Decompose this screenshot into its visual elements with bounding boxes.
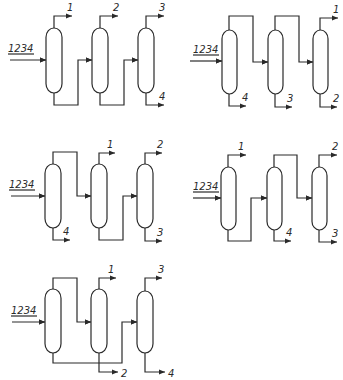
product-label-1: 1 [67,2,73,13]
diagram-sequence-d: 12431234 [193,141,338,245]
product-label-4: 4 [242,92,248,103]
product-label-3: 3 [332,228,338,239]
product-2-line [319,155,337,167]
flow-arrow-icon [307,60,313,65]
product-arrow-icon [240,104,246,109]
product-arrow-icon [285,239,291,244]
product-label-4: 4 [168,368,174,379]
product-arrow-icon [110,276,116,281]
product-label-3: 3 [158,264,164,275]
product-arrow-icon [156,276,162,281]
product-2-line [145,153,162,164]
distillation-sequences-figure: 1234123414321234124312341243123412341234 [0,0,343,380]
feed-arrow-icon [216,59,222,64]
flow-arrow-icon [261,196,267,201]
product-arrow-icon [286,105,292,110]
distillation-column-3 [137,164,153,228]
product-label-2: 2 [333,93,339,104]
product-arrow-icon [159,370,165,375]
product-arrow-icon [66,14,72,19]
distillation-column-3 [137,291,153,353]
product-arrow-icon [112,14,118,19]
product-1-line [228,155,246,167]
product-arrow-icon [331,153,337,158]
product-3-line [145,278,162,291]
product-label-2: 2 [113,2,119,13]
flow-arrow-icon [85,194,91,199]
flow-arrow-icon [86,58,92,63]
flow-arrow-icon [85,320,91,325]
distillation-column-3 [313,30,328,94]
distillation-column-1 [46,28,62,93]
flow-arrow-icon [131,320,137,325]
feed-label: 1234 [11,305,36,316]
product-label-3: 3 [287,93,293,104]
feed-arrow-icon [215,196,221,201]
product-label-4: 4 [63,226,69,237]
distillation-column-3 [312,167,327,230]
distillation-column-1 [221,167,236,230]
product-2-line [100,16,118,28]
product-arrow-icon [156,151,162,156]
distillation-column-2 [91,164,107,228]
distillation-column-2 [91,289,107,353]
product-label-2: 2 [157,139,163,150]
product-1-line [99,278,116,289]
distillation-column-2 [268,30,283,94]
product-arrow-icon [331,105,337,110]
flow-arrow-icon [131,194,137,199]
product-arrow-icon [332,16,338,21]
feed-label: 1234 [193,44,218,55]
diagram-sequence-e: 12341234 [11,264,174,379]
distillation-column-2 [267,167,282,230]
flow-arrow-icon [306,196,312,201]
product-1-line [320,18,338,30]
product-arrow-icon [64,238,70,243]
distillation-column-1 [222,30,237,94]
product-label-1: 1 [108,264,114,275]
feed-label: 1234 [193,181,218,192]
product-label-1: 1 [238,141,244,152]
product-label-4: 4 [286,227,292,238]
diagram-sequence-c: 12431234 [9,139,163,244]
product-arrow-icon [331,240,337,245]
product-arrow-icon [156,239,162,244]
product-3-line [146,16,164,28]
distillation-column-1 [45,164,61,228]
feed-arrow-icon [39,320,45,325]
product-label-2: 2 [121,368,127,379]
product-1-line [99,153,115,164]
product-arrow-icon [112,370,118,375]
product-label-2: 2 [332,141,338,152]
feed-arrow-icon [39,194,45,199]
feed-label: 1234 [8,43,33,54]
product-label-1: 1 [107,139,113,150]
feed-arrow-icon [40,58,46,63]
feed-label: 1234 [9,179,34,190]
product-arrow-icon [158,103,164,108]
product-label-4: 4 [159,91,165,102]
diagram-sequence-a: 12341234 [8,2,165,108]
distillation-column-2 [92,28,108,93]
product-1-line [54,16,72,28]
distillation-column-1 [45,289,61,353]
flow-arrow-icon [262,60,268,65]
product-arrow-icon [109,151,115,156]
product-label-3: 3 [159,2,165,13]
product-label-3: 3 [157,227,163,238]
distillation-column-3 [138,28,154,93]
product-arrow-icon [240,153,246,158]
flow-arrow-icon [132,58,138,63]
product-4-line [145,353,165,372]
product-label-1: 1 [333,4,339,15]
diagram-sequence-b: 14321234 [190,4,339,110]
product-arrow-icon [158,14,164,19]
